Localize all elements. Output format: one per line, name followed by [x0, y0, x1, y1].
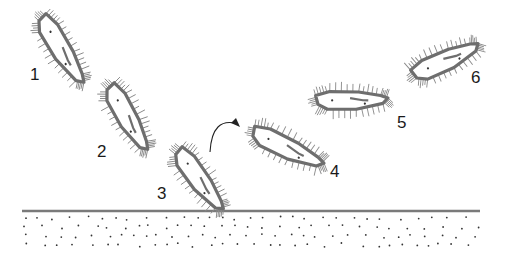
substrate-dot [366, 218, 368, 220]
substrate-dot [423, 228, 425, 230]
substrate-dot [214, 237, 216, 239]
substrate-dot [303, 235, 305, 237]
substrate-dot [362, 246, 364, 248]
substrate-dot [474, 236, 476, 238]
substrate-dot [25, 233, 27, 235]
substrate-dot [61, 228, 63, 230]
substrate-dot [354, 217, 356, 219]
substrate-dot [44, 245, 46, 247]
substrate-dot [146, 235, 148, 237]
substrate-dot [250, 217, 252, 219]
substrate-dot [314, 236, 316, 238]
substrate-dot [341, 242, 343, 244]
substrate-dot [465, 216, 467, 218]
substrate-dot [166, 244, 168, 246]
substrate-dot [75, 237, 77, 239]
substrate-dot [184, 216, 186, 218]
substrate-dot [262, 217, 264, 219]
substrate-dot [190, 224, 192, 226]
position-label-2: 2 [97, 143, 106, 160]
substrate-dot [166, 217, 168, 219]
substrate-dot [347, 234, 349, 236]
substrate-dot [335, 217, 337, 219]
substrate-dot [209, 216, 211, 218]
substrate-dot [92, 244, 94, 246]
cell-outline [31, 12, 93, 88]
substrate-dot [478, 227, 480, 229]
substrate-dot [261, 227, 263, 229]
substrate-dot [409, 234, 411, 236]
substrate-dot [171, 236, 173, 238]
substrate-dot [455, 237, 457, 239]
substrate-dot [139, 246, 141, 248]
substrate-dot [110, 236, 112, 238]
substrate-dot [298, 227, 300, 229]
substrate-dot [322, 216, 324, 218]
substrate-dot [245, 235, 247, 237]
substrate-dot [221, 225, 223, 227]
substrate-dot [376, 226, 378, 228]
substrate-dot [45, 236, 47, 238]
substrate-dot [428, 245, 430, 247]
substrate-dot [279, 244, 281, 246]
substrate-dot [446, 217, 448, 219]
substrate-dot [324, 246, 326, 248]
substrate-dot [461, 228, 463, 230]
substrate-dot [332, 235, 334, 237]
substrate-dot [36, 217, 38, 219]
substrate-dot [177, 224, 179, 226]
substrate-dot [222, 217, 224, 219]
rotation-arrow [210, 118, 240, 152]
substrate-dot [279, 226, 281, 228]
substrate-dot [378, 246, 380, 248]
substrate-dot [418, 218, 420, 220]
substrate-dot [188, 236, 190, 238]
substrate-dot [401, 244, 403, 246]
substrate-dot [51, 219, 53, 221]
ciliate-cell-5 [307, 78, 395, 121]
substrate-dot [139, 225, 141, 227]
substrate-dot [280, 216, 282, 218]
substrate-dot [253, 243, 255, 245]
substrate-dot [106, 227, 108, 229]
substrate-dot [328, 224, 330, 226]
substrate-dot [291, 234, 293, 236]
substrate-dot [25, 217, 27, 219]
substrate-dot [398, 236, 400, 238]
ciliate-locomotion-diagram: 1 2 3 4 5 6 [0, 0, 506, 256]
substrate-dot [359, 226, 361, 228]
substrate-dot [389, 245, 391, 247]
substrate-dot [115, 217, 117, 219]
substrate-dot [442, 235, 444, 237]
position-label-4: 4 [330, 163, 339, 180]
substrate-dot [437, 243, 439, 245]
substrate-dot [147, 224, 149, 226]
substrate-dot [117, 244, 119, 246]
substrate-dot [126, 219, 128, 221]
position-label-1: 1 [30, 66, 39, 83]
substrate-dot [431, 216, 433, 218]
substrate-dot [379, 218, 381, 220]
position-label-5: 5 [397, 114, 406, 131]
substrate-dot [154, 244, 156, 246]
substrate-dot [310, 224, 312, 226]
substrate-dot [383, 237, 385, 239]
substrate-dot [203, 225, 205, 227]
substrate-dot [56, 244, 58, 246]
substrate-dot [69, 216, 71, 218]
substrate-dot [342, 224, 344, 226]
substrate-dot [468, 244, 470, 246]
substrate-dot [155, 234, 157, 236]
substrate-dot [450, 243, 452, 245]
cell-outline [315, 88, 388, 112]
substrate-dot [233, 219, 235, 221]
substrate-dot [202, 234, 204, 236]
substrate-dot [166, 228, 168, 230]
substrate-dot [23, 226, 25, 228]
substrate-dot [125, 228, 127, 230]
substrate-dot [229, 234, 231, 236]
substrate-dot [416, 245, 418, 247]
substrate-dot [133, 234, 135, 236]
position-label-6: 6 [471, 69, 480, 86]
arrowhead-icon [231, 118, 240, 127]
